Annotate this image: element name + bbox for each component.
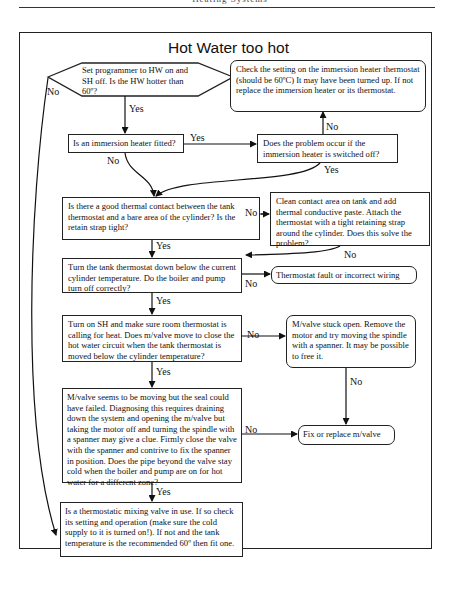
edge-label-contact-no: No: [245, 207, 257, 218]
edge-label-fitted-no: No: [107, 155, 119, 166]
edge-label-turndown-yes: Yes: [156, 295, 171, 306]
edge-label-clean-no: No: [344, 249, 356, 260]
action-mixing-valve: Is a thermostatic mixing valve in use. I…: [60, 502, 243, 557]
edge-label-off-yes: Yes: [324, 164, 339, 175]
edge-label-stuck-no: No: [350, 376, 362, 387]
decision-turn-thermostat-down: Turn the tank thermostat down below the …: [62, 258, 242, 293]
edge-label-off-no: No: [326, 121, 338, 132]
decision-clean-contact: Clean contact area on tank and add therm…: [270, 192, 430, 246]
decision-turn-on-sh: Turn on SH and make sure room thermostat…: [62, 315, 242, 362]
edge-label-start-yes: Yes: [129, 103, 144, 114]
decision-immersion-fitted: Is an immersion heater fitted?: [68, 134, 184, 153]
edge-label-sh-yes: Yes: [156, 366, 171, 377]
result-thermostat-fault: Thermostat fault or incorrect wiring: [271, 266, 417, 284]
edge-label-sh-no: No: [247, 329, 259, 340]
edge-label-contact-yes: Yes: [156, 240, 171, 251]
decision-mvalve-seal: M/valve seems to be moving but the seal …: [62, 388, 242, 483]
action-check-immersion-thermostat: Check the setting on the immersion heate…: [230, 60, 426, 112]
decision-start: Set programmer to HW on and SH off. Is t…: [82, 65, 200, 97]
edge-label-turndown-no: No: [245, 278, 257, 289]
decision-immersion-switched-off: Does the problem occur if the immersion …: [257, 134, 398, 163]
decision-thermal-contact: Is there a good thermal contact between …: [62, 197, 260, 240]
action-mvalve-stuck: M/valve stuck open. Remove the motor and…: [286, 315, 416, 368]
edge-label-seal-no: No: [245, 424, 257, 435]
edge-label-start-no: No: [47, 86, 59, 97]
result-fix-replace-mvalve: Fix or replace m/valve: [298, 425, 395, 445]
edge-label-fitted-yes: Yes: [190, 132, 205, 143]
edge-label-seal-yes: Yes: [156, 486, 171, 497]
